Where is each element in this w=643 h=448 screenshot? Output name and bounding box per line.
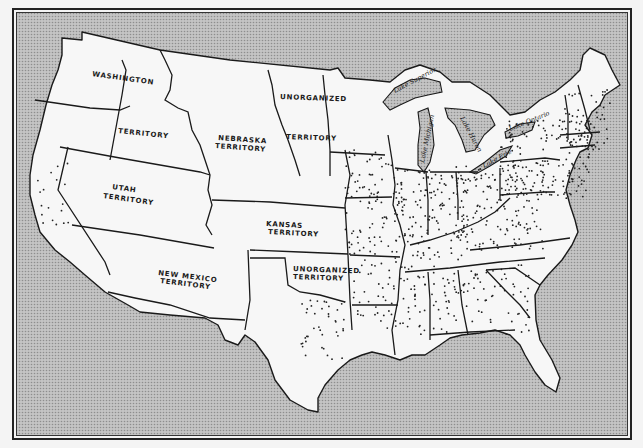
us-territories-map: WASHINGTON TERRITORY NEBRASKA TERRITORY … (0, 0, 643, 448)
